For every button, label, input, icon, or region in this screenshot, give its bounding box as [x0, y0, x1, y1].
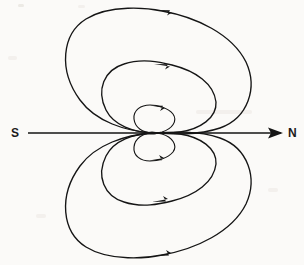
field-lines-canvas	[0, 0, 304, 265]
middle-upper-loop	[102, 61, 216, 133]
lower-field-lines	[66, 132, 251, 258]
inner-lower-arrowhead-icon	[149, 155, 164, 161]
outer-upper-loop	[66, 8, 251, 134]
inner-upper-loop	[134, 105, 175, 133]
inner-upper-arrowhead-icon	[150, 106, 165, 112]
middle-lower-loop	[102, 133, 216, 205]
upper-field-lines	[66, 8, 251, 134]
middle-upper-arrowhead-icon	[154, 64, 170, 70]
middle-lower-arrowhead-icon	[152, 196, 168, 202]
south-pole-label: S	[11, 127, 19, 139]
outer-lower-arrowhead-icon	[155, 250, 171, 256]
outer-lower-loop	[66, 132, 251, 258]
inner-lower-loop	[134, 133, 175, 161]
north-pole-label: N	[288, 127, 297, 139]
magnetic-dipole-figure: S N	[0, 0, 304, 265]
dipole-center-convergence	[147, 131, 157, 134]
